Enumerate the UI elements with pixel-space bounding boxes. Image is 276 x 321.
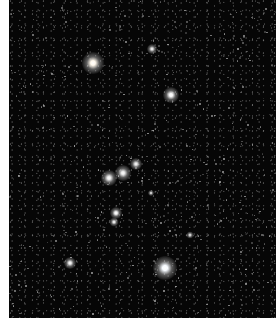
- star-eta-ori: [187, 232, 194, 239]
- star-belt-alnilam: [115, 165, 131, 181]
- star-saiph: [64, 257, 76, 269]
- star-sword-lower: [110, 218, 119, 227]
- star-meissa: [147, 44, 157, 54]
- star-field-photo: [9, 0, 276, 318]
- star-sigma-ori: [148, 190, 154, 196]
- background-starfield: [9, 0, 276, 318]
- star-betelgeuse: [82, 52, 104, 74]
- star-rigel: [153, 256, 177, 280]
